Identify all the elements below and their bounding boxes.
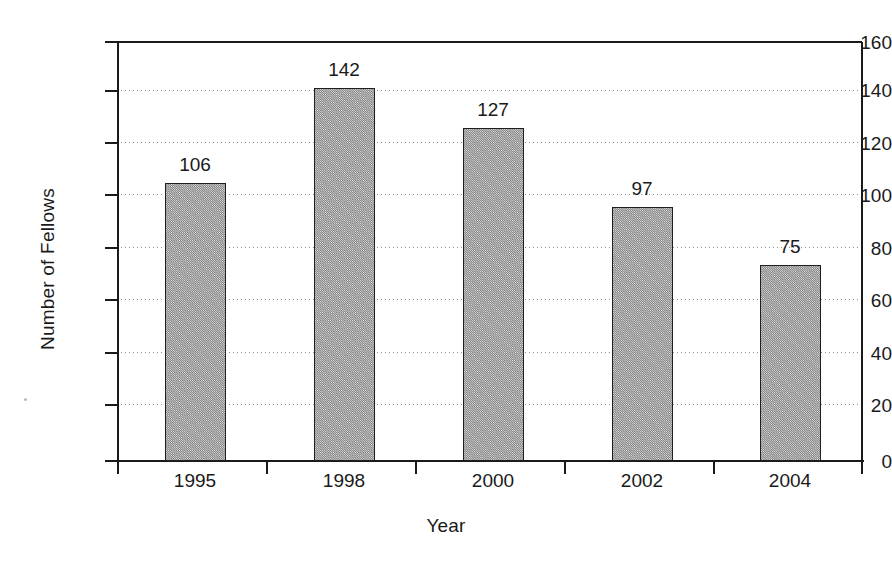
y-tick-100 bbox=[105, 194, 118, 196]
y-tick-20 bbox=[105, 404, 118, 406]
x-axis-title: Year bbox=[0, 515, 892, 537]
bar-1995 bbox=[165, 183, 226, 461]
y-tick-40 bbox=[105, 352, 118, 354]
y-tick-label-120: 120 bbox=[796, 134, 892, 153]
x-tick-label-2002: 2002 bbox=[562, 470, 722, 492]
y-tick-label-140: 140 bbox=[796, 81, 892, 100]
bar-value-label-2000: 127 bbox=[413, 100, 573, 119]
y-tick-140 bbox=[105, 90, 118, 92]
x-tick-label-1998: 1998 bbox=[264, 470, 424, 492]
bar-2002 bbox=[612, 207, 673, 461]
bar-chart: Number of Fellows 160 140 120 100 80 60 … bbox=[0, 0, 892, 573]
plot-border-top bbox=[117, 41, 862, 43]
x-tick-label-1995: 1995 bbox=[115, 470, 275, 492]
y-tick-120 bbox=[105, 142, 118, 144]
y-tick-label-100: 100 bbox=[796, 186, 892, 205]
y-tick-60 bbox=[105, 299, 118, 301]
y-axis-line bbox=[117, 42, 119, 472]
bar-value-label-1998: 142 bbox=[264, 60, 424, 79]
bar-1998 bbox=[314, 88, 375, 461]
gridline-140 bbox=[117, 90, 862, 91]
bar-2004 bbox=[760, 265, 821, 461]
scan-artifact-speck bbox=[24, 398, 27, 401]
bar-value-label-2002: 97 bbox=[562, 179, 722, 198]
bar-value-label-1995: 106 bbox=[115, 155, 275, 174]
y-tick-label-160: 160 bbox=[796, 33, 892, 52]
x-tick-label-2004: 2004 bbox=[710, 470, 870, 492]
bar-value-label-2004: 75 bbox=[710, 237, 870, 256]
y-axis-title: Number of Fellows bbox=[37, 129, 59, 409]
y-tick-160 bbox=[105, 41, 118, 43]
x-tick-label-2000: 2000 bbox=[413, 470, 573, 492]
bar-2000 bbox=[463, 128, 524, 461]
y-tick-80 bbox=[105, 247, 118, 249]
